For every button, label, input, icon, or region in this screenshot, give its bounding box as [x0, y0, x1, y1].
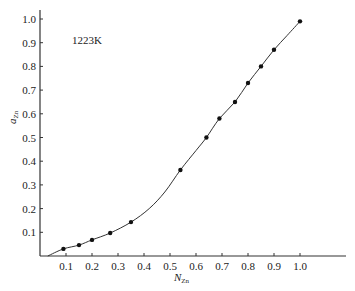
- y-tick-label: 0.4: [22, 155, 36, 167]
- data-point: [217, 116, 221, 120]
- x-axis-label: NZn: [173, 271, 190, 285]
- data-point: [233, 100, 237, 104]
- data-point: [90, 238, 94, 242]
- activity-chart: 0.10.20.30.40.50.60.70.80.91.00.10.20.30…: [0, 0, 355, 291]
- y-tick-label: 0.7: [22, 84, 36, 96]
- data-point: [61, 247, 65, 251]
- data-point: [77, 243, 81, 247]
- x-tick-label: 0.4: [137, 260, 151, 272]
- data-point: [298, 19, 302, 23]
- temperature-annotation: 1223K: [72, 34, 102, 46]
- y-tick-label: 0.2: [22, 203, 36, 215]
- y-tick-label: 1.0: [22, 13, 36, 25]
- data-point: [108, 231, 112, 235]
- x-tick-label: 0.7: [215, 260, 229, 272]
- x-tick-label: 0.2: [85, 260, 99, 272]
- data-point: [272, 48, 276, 52]
- data-point: [129, 220, 133, 224]
- data-points: [61, 19, 302, 251]
- y-tick-label: 0.6: [22, 108, 36, 120]
- x-tick-label: 1.0: [293, 260, 307, 272]
- data-point: [178, 168, 182, 172]
- y-tick-label: 0.5: [22, 132, 36, 144]
- y-tick-label: 0.1: [22, 226, 36, 238]
- x-tick-label: 0.3: [111, 260, 125, 272]
- x-tick-label: 0.9: [267, 260, 281, 272]
- y-tick-label: 0.8: [22, 60, 36, 72]
- ticks: 0.10.20.30.40.50.60.70.80.91.00.10.20.30…: [22, 13, 307, 272]
- x-tick-label: 0.6: [189, 260, 203, 272]
- data-point: [204, 135, 208, 139]
- y-tick-label: 0.3: [22, 179, 36, 191]
- x-tick-label: 0.8: [241, 260, 255, 272]
- fitted-curve: [48, 21, 300, 256]
- data-point: [246, 81, 250, 85]
- y-tick-label: 0.9: [22, 37, 36, 49]
- x-tick-label: 0.1: [59, 260, 73, 272]
- y-axis-label: aZn: [6, 110, 20, 124]
- data-point: [259, 64, 263, 68]
- axes: [40, 10, 346, 256]
